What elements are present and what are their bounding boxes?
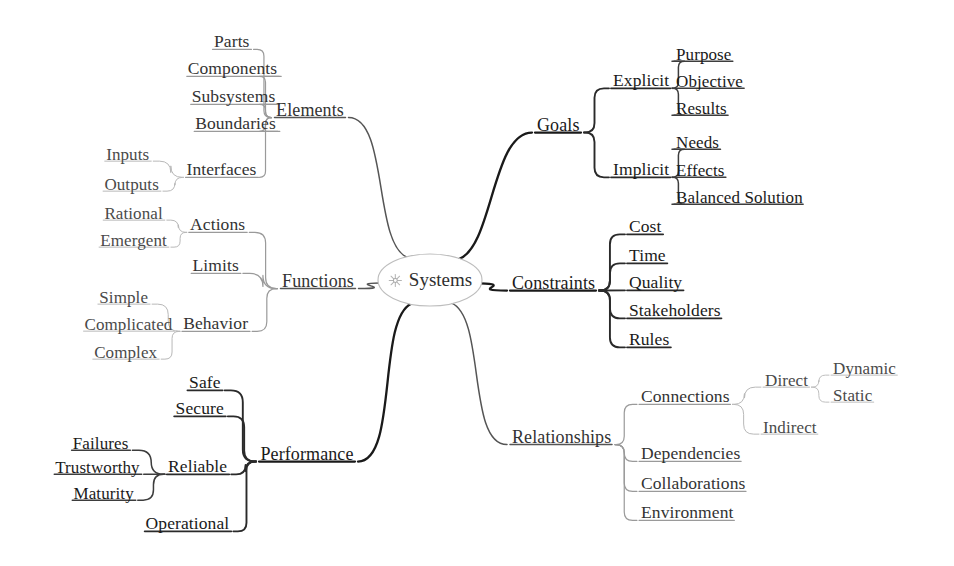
branch-performance-child-2-child-2[interactable]: Maturity bbox=[73, 485, 133, 502]
branch-functions-child-2-child-1[interactable]: Complicated bbox=[84, 316, 172, 333]
branch-goals-child-1-child-2[interactable]: Balanced Solution bbox=[676, 189, 803, 206]
branch-performance-child-2-child-1[interactable]: Trustworthy bbox=[55, 459, 140, 476]
branch-elements-child-2[interactable]: Subsystems bbox=[192, 88, 276, 106]
starburst-icon bbox=[388, 273, 403, 288]
branch-functions-child-0-child-0[interactable]: Rational bbox=[104, 205, 162, 222]
branch-goals-child-0-child-2[interactable]: Results bbox=[676, 100, 727, 117]
branch-relationships-child-2[interactable]: Collaborations bbox=[641, 475, 745, 493]
branch-relationships-child-3[interactable]: Environment bbox=[641, 504, 733, 522]
branch-relationships-child-0[interactable]: Connections bbox=[641, 388, 730, 406]
branch-constraints-label[interactable]: Constraints bbox=[512, 274, 595, 292]
branch-goals-label[interactable]: Goals bbox=[537, 116, 580, 134]
branch-functions-child-2-child-0[interactable]: Simple bbox=[99, 289, 148, 306]
branch-constraints-child-3[interactable]: Stakeholders bbox=[629, 302, 721, 320]
branch-functions-child-2[interactable]: Behavior bbox=[183, 315, 248, 333]
branch-goals-child-0-child-0[interactable]: Purpose bbox=[676, 46, 731, 63]
branch-performance-child-3[interactable]: Operational bbox=[146, 515, 230, 533]
center-node[interactable]: Systems bbox=[388, 269, 472, 291]
branch-goals-child-1-child-1[interactable]: Effects bbox=[676, 162, 725, 179]
branch-elements-child-1[interactable]: Components bbox=[188, 60, 277, 78]
branch-goals-child-0[interactable]: Explicit bbox=[613, 72, 669, 90]
branch-relationships-child-1[interactable]: Dependencies bbox=[641, 445, 740, 463]
branch-relationships-child-0-child-0[interactable]: Direct bbox=[765, 372, 808, 389]
branch-performance-label[interactable]: Performance bbox=[260, 445, 353, 463]
branch-elements-child-4-child-1[interactable]: Outputs bbox=[104, 176, 159, 193]
branch-constraints-child-2[interactable]: Quality bbox=[629, 274, 682, 292]
mindmap-canvas bbox=[0, 0, 954, 566]
branch-functions-child-0-child-1[interactable]: Emergent bbox=[100, 232, 167, 249]
branch-functions-child-2-child-2[interactable]: Complex bbox=[94, 344, 157, 361]
branch-constraints-child-4[interactable]: Rules bbox=[629, 331, 669, 349]
branch-elements-child-0[interactable]: Parts bbox=[214, 33, 250, 51]
branch-functions-child-1[interactable]: Limits bbox=[193, 257, 239, 275]
branch-goals-child-1[interactable]: Implicit bbox=[613, 161, 669, 179]
branch-elements-child-3[interactable]: Boundaries bbox=[195, 115, 276, 133]
branch-elements-child-4[interactable]: Interfaces bbox=[187, 161, 257, 179]
branch-relationships-child-0-child-0-child-0[interactable]: Dynamic bbox=[833, 360, 896, 377]
center-node-label: Systems bbox=[409, 269, 472, 291]
branch-functions-label[interactable]: Functions bbox=[282, 272, 354, 290]
branch-elements-label[interactable]: Elements bbox=[276, 101, 344, 119]
branch-performance-child-1[interactable]: Secure bbox=[176, 400, 224, 418]
branch-constraints-child-0[interactable]: Cost bbox=[629, 218, 662, 236]
branch-performance-child-2-child-0[interactable]: Failures bbox=[73, 435, 129, 452]
branch-goals-child-0-child-1[interactable]: Objective bbox=[676, 73, 743, 90]
branch-relationships-child-0-child-1[interactable]: Indirect bbox=[763, 419, 817, 436]
branch-functions-child-0[interactable]: Actions bbox=[190, 216, 245, 234]
branch-relationships-child-0-child-0-child-1[interactable]: Static bbox=[833, 387, 872, 404]
branch-elements-child-4-child-0[interactable]: Inputs bbox=[106, 146, 149, 163]
branch-relationships-label[interactable]: Relationships bbox=[512, 428, 611, 446]
branch-goals-child-1-child-0[interactable]: Needs bbox=[676, 134, 719, 151]
branch-performance-child-2[interactable]: Reliable bbox=[168, 458, 227, 476]
branch-constraints-child-1[interactable]: Time bbox=[629, 247, 666, 265]
branch-performance-child-0[interactable]: Safe bbox=[189, 374, 221, 392]
